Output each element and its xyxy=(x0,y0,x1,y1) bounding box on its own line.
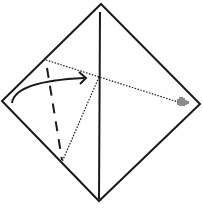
center-crease-line xyxy=(99,12,100,199)
origami-diagram xyxy=(0,0,203,208)
paper-square-outline xyxy=(2,4,200,201)
